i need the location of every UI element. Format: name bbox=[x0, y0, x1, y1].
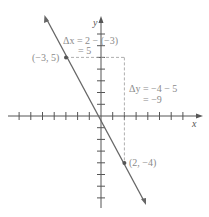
x-axis-label: x bbox=[192, 118, 196, 129]
point-label-2: (2, −4) bbox=[129, 158, 156, 168]
point-label-1: (−3, 5) bbox=[32, 53, 59, 63]
y-axis-label: y bbox=[93, 17, 97, 28]
line-arrow-down-icon bbox=[141, 198, 146, 205]
y-axis-arrow-icon bbox=[99, 16, 104, 23]
delta-y-line1: Δy = −4 − 5 bbox=[129, 84, 177, 94]
delta-x-line2: = 5 bbox=[78, 46, 91, 56]
delta-y-line2: = −9 bbox=[143, 95, 162, 105]
x-axis-arrow-icon bbox=[196, 114, 203, 119]
coordinate-plane bbox=[0, 0, 209, 217]
point-neg3-5 bbox=[64, 55, 68, 59]
point-2-neg4 bbox=[122, 161, 126, 165]
